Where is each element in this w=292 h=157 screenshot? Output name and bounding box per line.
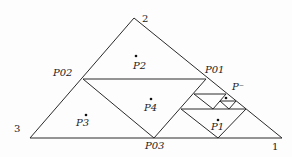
point-p2 xyxy=(135,55,138,58)
point-p4 xyxy=(150,98,153,101)
vertex-label-1: 1 xyxy=(272,141,278,152)
label-p2: P2 xyxy=(132,60,146,71)
vertex-label-3: 3 xyxy=(14,123,20,134)
triangle-diagram: 2 3 1 P02 P01 P03 P⁻ P2 P4 P3 P1 xyxy=(0,0,292,157)
label-p-minus: P⁻ xyxy=(231,81,244,92)
label-p02: P02 xyxy=(52,67,72,78)
diagram-canvas: 2 3 1 P02 P01 P03 P⁻ P2 P4 P3 P1 xyxy=(0,0,292,157)
label-p01: P01 xyxy=(204,64,224,75)
segment-level3-left xyxy=(220,101,229,109)
vertex-label-2: 2 xyxy=(142,13,148,24)
outer-triangle xyxy=(30,18,282,138)
segment-level3-right xyxy=(229,101,236,109)
label-p03: P03 xyxy=(144,140,164,151)
point-p3 xyxy=(85,114,88,117)
point-p-minus xyxy=(225,97,228,100)
label-p1: P1 xyxy=(210,121,224,132)
label-p4: P4 xyxy=(143,102,157,113)
segment-level2-left xyxy=(194,94,213,109)
label-p3: P3 xyxy=(75,117,89,128)
